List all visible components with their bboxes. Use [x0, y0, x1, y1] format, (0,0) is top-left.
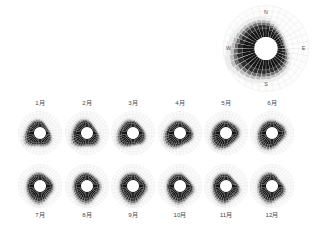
rose-sector [38, 145, 40, 146]
rose-sector [208, 133, 210, 136]
rose-sector [97, 184, 99, 186]
rose-sector [101, 186, 103, 188]
rose-sector [87, 120, 89, 121]
rose-sector [224, 173, 226, 174]
rose-sector [238, 131, 239, 133]
rose-sector [143, 184, 145, 186]
rose-sector [236, 131, 238, 133]
rose-sector [27, 184, 28, 186]
rose-sector [180, 175, 182, 177]
rose-sector [192, 131, 193, 133]
rose-sector [240, 186, 242, 189]
monthly-wind-rose-m5 [205, 112, 248, 155]
monthly-wind-rose-m12 [251, 165, 294, 208]
rose-sector [54, 183, 56, 186]
rose-sector [255, 133, 257, 136]
rose-sector [223, 149, 226, 151]
rose-sector [285, 49, 287, 52]
rose-sector [269, 170, 272, 172]
rose-sector [226, 118, 228, 120]
rose-sector [130, 170, 132, 172]
rose-sector [133, 144, 135, 145]
rose-sector [99, 186, 100, 188]
compass-label-east: E [302, 45, 306, 51]
rose-sector [133, 172, 135, 173]
rose-sector [145, 186, 147, 188]
rose-sector [146, 133, 148, 135]
rose-sector [133, 145, 135, 146]
rose-sector [87, 204, 90, 207]
rose-sector [260, 131, 262, 133]
rose-sector [133, 122, 135, 124]
rose-sector [55, 186, 57, 189]
rose-sector [117, 183, 119, 186]
rose-sector [166, 184, 167, 186]
rose-sector [192, 184, 193, 186]
rose-sector [223, 148, 226, 150]
rose-sector [85, 146, 87, 147]
rose-sector [270, 172, 272, 173]
rose-sector [178, 145, 180, 146]
rose-sector [85, 121, 87, 123]
rose-sector [100, 184, 101, 186]
rose-sector [96, 133, 98, 135]
rose-sector [84, 203, 87, 205]
rose-sector [272, 149, 275, 151]
rose-sector [98, 131, 99, 133]
rose-sector [168, 186, 170, 188]
rose-sector [272, 174, 274, 175]
rose-sector [226, 122, 228, 124]
rose-sector [272, 118, 274, 120]
month-label-m7: 7月 [35, 211, 44, 219]
rose-sector [131, 172, 133, 173]
rose-sector [24, 133, 26, 136]
rose-sector [272, 144, 274, 146]
rose-sector [83, 205, 86, 208]
rose-sector [38, 172, 40, 173]
rose-sector [283, 184, 284, 186]
rose-sector [99, 184, 100, 186]
rose-sector [178, 147, 180, 149]
rose-sector [25, 186, 26, 188]
rose-sector [87, 118, 89, 120]
rose-sector [40, 173, 42, 174]
rose-sector [224, 121, 226, 122]
rose-sector [133, 201, 136, 203]
rose-sector [237, 184, 238, 186]
month-label-m5: 5月 [221, 99, 230, 107]
rose-sector [266, 23, 270, 26]
rose-sector [143, 186, 145, 188]
rose-sector [167, 131, 169, 133]
rose-sector [40, 147, 42, 149]
rose-sector [165, 133, 167, 135]
rose-sector [99, 133, 100, 135]
rose-sector [226, 120, 228, 121]
rose-sector [52, 184, 53, 186]
rose-sector [28, 184, 30, 186]
month-label-m4: 4月 [175, 99, 184, 107]
rose-sector [131, 120, 133, 121]
rose-sector [192, 186, 193, 188]
rose-sector [75, 186, 77, 188]
rose-sector [164, 186, 166, 189]
rose-sector [48, 131, 49, 132]
rose-sector [50, 186, 52, 188]
rose-sector [165, 131, 167, 133]
rose-sector [69, 133, 71, 136]
rose-sector [239, 133, 240, 135]
rose-sector [272, 122, 274, 124]
rose-sector [24, 183, 26, 186]
rose-sector [131, 174, 133, 176]
rose-sector [129, 205, 132, 208]
compass-label-north: N [264, 9, 268, 15]
rose-sector [133, 204, 136, 207]
rose-sector [74, 131, 76, 133]
rose-hub [34, 180, 46, 192]
rose-sector [286, 133, 288, 135]
rose-sector [287, 130, 289, 133]
rose-sector [87, 201, 90, 203]
rose-sector [213, 186, 214, 188]
rose-sector [25, 133, 27, 135]
rose-sector [147, 186, 149, 188]
rose-sector [214, 184, 216, 186]
